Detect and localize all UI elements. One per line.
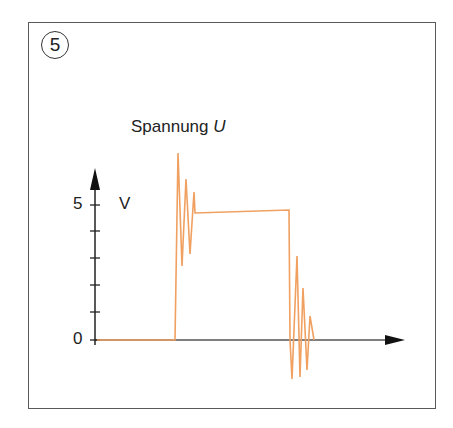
voltage-signal-line bbox=[97, 153, 314, 379]
voltage-chart bbox=[0, 0, 453, 428]
y-axis-arrow-icon bbox=[90, 168, 100, 190]
x-axis-arrow-icon bbox=[385, 335, 405, 345]
